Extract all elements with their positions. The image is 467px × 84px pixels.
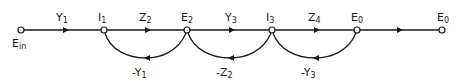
arrow-icon: [397, 27, 403, 33]
gain-label-y3: Y3: [225, 12, 237, 25]
node-e2: [184, 27, 190, 33]
gain-label-y1: Y1: [56, 12, 68, 25]
arrow-icon: [228, 55, 234, 61]
node-label-i3: I3: [266, 12, 274, 25]
gain-label-neg-y1: -Y1: [132, 67, 146, 80]
node-e0-output: [439, 27, 445, 33]
feedback-e0-i3: [273, 33, 356, 58]
node-label-i1: I1: [98, 12, 106, 25]
gain-label-z4: Z4: [308, 12, 321, 25]
arrow-icon: [145, 27, 151, 33]
feedback-i3-e2: [188, 33, 271, 58]
arrow-icon: [63, 27, 69, 33]
node-label-e0-output: E0: [437, 12, 449, 25]
gain-label-neg-z2: -Z2: [216, 67, 233, 80]
node-label-e2: E2: [181, 12, 193, 25]
node-label-e0: E0: [351, 12, 363, 25]
arrow-icon: [144, 55, 150, 61]
feedback-e2-i1: [105, 33, 186, 58]
gain-label-neg-y3: -Y3: [301, 67, 315, 80]
node-ein: [18, 27, 24, 33]
gain-label-z2: Z2: [139, 12, 152, 25]
node-i1: [101, 27, 107, 33]
node-e0: [354, 27, 360, 33]
node-label-ein: Ein: [12, 38, 26, 51]
arrow-icon: [314, 27, 320, 33]
node-i3: [269, 27, 275, 33]
arrow-icon: [313, 55, 319, 61]
arrow-icon: [229, 27, 235, 33]
